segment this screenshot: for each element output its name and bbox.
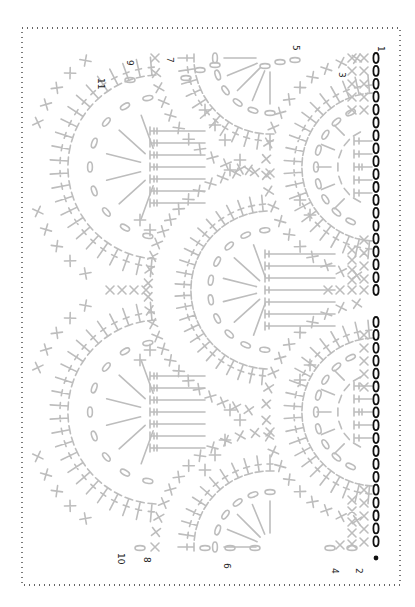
row-label: 3 — [337, 72, 347, 78]
stitch-symbols — [33, 53, 374, 552]
row-labels: 1234567891011 — [96, 45, 386, 574]
crochet-chart: 1234567891011 — [0, 0, 415, 607]
row-label: 10 — [116, 553, 126, 565]
row-label: 5 — [291, 45, 301, 51]
row-label: 7 — [165, 57, 175, 63]
row-label: 9 — [125, 60, 135, 66]
foundation-chain — [373, 53, 378, 560]
row-label: 6 — [222, 563, 232, 569]
row-label: 2 — [354, 568, 364, 574]
row-label: 11 — [96, 78, 106, 89]
row-label: 8 — [142, 557, 152, 563]
row-label: 1 — [376, 46, 386, 52]
row-label: 4 — [330, 568, 340, 574]
chart-border — [22, 28, 400, 585]
